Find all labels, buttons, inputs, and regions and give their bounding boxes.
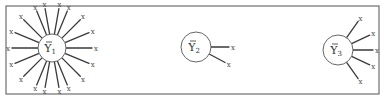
observation-label: x xyxy=(42,1,46,9)
cluster-diagram: xxxxxxxxxxxxxxxxxxY1xxY2xxxxxY3 xyxy=(0,0,384,101)
spoke-line xyxy=(57,61,67,85)
observation-label: x xyxy=(358,78,362,86)
spoke-line xyxy=(352,56,370,65)
spoke-line xyxy=(24,20,42,38)
observation-label: x xyxy=(67,85,71,93)
observation-label: x xyxy=(81,13,85,21)
observation-label: x xyxy=(91,61,95,69)
observation-label: x xyxy=(81,76,85,84)
spoke-line xyxy=(37,11,47,35)
observation-label: x xyxy=(371,30,375,38)
spoke-line xyxy=(54,62,59,88)
cluster-2: xxY2 xyxy=(181,32,235,69)
observation-label: x xyxy=(227,61,231,69)
spoke-line xyxy=(209,54,225,63)
observation-label: x xyxy=(94,45,98,53)
clusters-group: xxxxxxxxxxxxxxxxxxY1xxY2xxxxxY3 xyxy=(6,1,379,96)
spoke-line xyxy=(15,33,39,43)
spoke-line xyxy=(352,35,370,44)
spoke-line xyxy=(62,58,80,76)
spoke-line xyxy=(57,11,67,35)
observation-label: x xyxy=(91,28,95,36)
observation-label: x xyxy=(6,45,10,53)
observation-label: x xyxy=(58,88,62,96)
observation-label: x xyxy=(19,13,23,21)
observation-label: x xyxy=(67,4,71,12)
observation-label: x xyxy=(19,76,23,84)
observation-label: x xyxy=(33,85,37,93)
observation-label: x xyxy=(358,15,362,23)
cluster-3: xxxxxY3 xyxy=(323,15,379,87)
observation-label: x xyxy=(42,88,46,96)
spoke-line xyxy=(37,61,47,85)
observation-label: x xyxy=(371,63,375,71)
spoke-line xyxy=(15,53,39,63)
observation-label: x xyxy=(9,28,13,36)
spoke-line xyxy=(65,53,89,63)
spoke-line xyxy=(45,9,50,35)
observation-label: x xyxy=(231,44,235,52)
spoke-line xyxy=(62,20,80,38)
observation-label: x xyxy=(33,4,37,12)
cluster-1: xxxxxxxxxxxxxxxxxxY1 xyxy=(6,1,98,96)
observation-label: x xyxy=(375,47,379,55)
spoke-line xyxy=(65,33,89,43)
spoke-line xyxy=(45,62,50,88)
spoke-line xyxy=(347,62,359,78)
observation-label: x xyxy=(9,61,13,69)
spoke-line xyxy=(24,58,42,76)
observation-label: x xyxy=(58,1,62,9)
spoke-line xyxy=(347,21,359,37)
spoke-line xyxy=(54,9,59,35)
